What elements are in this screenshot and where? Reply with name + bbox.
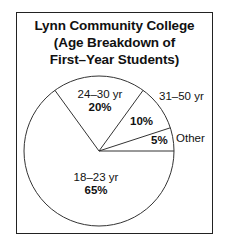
slice-percent-31-50: 10% (130, 115, 153, 128)
slice-category: 18–23 yr (68, 171, 124, 184)
slice-label-24-30: 24–30 yr 20% (72, 88, 128, 114)
slice-percent: 65% (68, 184, 124, 197)
slice-percent-other: 5% (151, 134, 168, 147)
slice-category-other: Other (176, 132, 205, 145)
slice-category-31-50: 31–50 yr (159, 90, 204, 103)
slice-category: 24–30 yr (72, 88, 128, 101)
slice-percent: 20% (72, 101, 128, 114)
slice-label-18-23: 18–23 yr 65% (68, 171, 124, 197)
pie-chart (0, 0, 229, 249)
